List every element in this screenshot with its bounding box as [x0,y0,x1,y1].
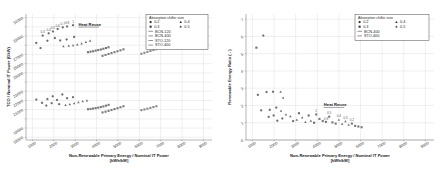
data-point [146,108,148,110]
chart-panel-left: 1000200030004000500060007000800090001800… [0,0,222,174]
data-point [95,107,97,109]
y-tick-label: 18000 [12,135,25,145]
data-point [122,105,124,107]
x-tick-label: 8000 [397,140,408,149]
right-chart-svg: 1000200030004000500060007000800090000123… [222,0,443,174]
data-point [92,107,94,109]
x-tick-label: 8000 [176,140,187,149]
y-tick-label: 22000 [12,98,25,108]
figure-root: 1000200030004000500060007000800090001800… [0,0,443,174]
data-point [360,126,362,128]
data-point [140,109,142,111]
data-point [143,52,145,54]
legend-size-label: 0.2 [363,20,368,24]
x-tick-label: 9000 [419,140,430,149]
data-point [324,121,326,123]
data-point [119,49,121,51]
left-chart-svg: 1000200030004000500060007000800090001800… [0,0,222,174]
legend-size-label: 0.5 [400,25,405,29]
y-tick-label: 31000 [12,15,25,25]
x-axis-units: [kWh/kW] [330,158,349,163]
data-point [87,108,89,110]
x-tick-label: 6000 [354,140,365,149]
legend-size-label: 0.3 [363,25,368,29]
y-tick-label: 25000 [12,70,25,80]
data-point [92,50,94,52]
data-point [107,104,109,106]
legend-size-label: 0.4 [184,20,189,24]
x-tick-label: 4000 [311,140,322,149]
data-point [328,116,330,118]
data-point [97,107,99,109]
x-tick-label: 2000 [48,140,59,149]
data-point [122,48,124,50]
data-point [107,53,109,55]
data-point [155,105,157,107]
data-point [113,108,115,110]
x-tick-label: 5000 [333,140,344,149]
data-point [149,50,151,52]
x-tick-label: 4000 [91,140,102,149]
legend-title: Absorption chiller size [149,16,184,20]
data-point [101,111,103,113]
data-point [318,118,320,120]
y-tick-label: 2 [239,103,243,108]
chart-panel-right: 1000200030004000500060007000800090000123… [222,0,443,174]
data-point [110,109,112,111]
x-tick-label: 6000 [134,140,145,149]
data-point [350,123,352,125]
data-point [313,122,315,124]
data-point [102,48,104,50]
y-tick-label: 5 [239,52,243,57]
data-point-label: 0.4 [336,114,341,118]
data-point [113,51,115,53]
data-point [107,110,109,112]
y-tick-label: 23000 [12,89,25,99]
y-tick-label: 7 [239,17,243,22]
y-tick-label: 1 [239,121,243,126]
data-point [354,125,356,127]
y-tick-label: 19000 [12,125,25,135]
y-tick-label: 0 [239,137,244,143]
data-point [315,113,317,115]
data-point [87,51,89,53]
data-point [357,125,359,127]
legend-series-label: STO-120 [155,39,170,43]
x-tick-label: 1000 [27,140,38,149]
data-point [104,111,106,113]
legend-series-label: BCN-120 [155,30,171,34]
data-point [140,53,142,55]
data-point [119,106,121,108]
data-point-label: 0.5 [327,111,332,115]
y-axis-title: Renewable Energy Ratio ( - ) [227,49,232,105]
legend-series-label: BCN-400 [155,34,171,38]
x-tick-label: 7000 [155,140,166,149]
data-point [116,107,118,109]
data-point-label: 0.8 [323,117,328,121]
data-point [152,106,154,108]
x-tick-label: 7000 [376,140,387,149]
legend-marker [358,26,360,28]
data-point-label: 0.3 [41,30,46,34]
data-point-label: 0.6 [55,24,60,28]
annotation-heat-reuse: Heat Reuse [323,102,346,107]
legend-series-label: BCN-400 [364,30,380,34]
data-point [100,48,102,50]
x-tick-label: 9000 [198,140,209,149]
data-point [95,50,97,52]
data-point [143,108,145,110]
legend-size-label: 0.4 [400,20,405,24]
legend-size-label: 0.3 [154,25,159,29]
x-tick-label: 2000 [268,140,279,149]
data-point-label: 1 [315,109,317,113]
y-tick-label: 21000 [12,107,25,117]
data-point [255,47,257,49]
data-point [331,121,333,123]
y-tick-label: 26000 [12,61,25,71]
data-point [116,50,118,52]
data-point [105,47,107,49]
data-point-label: 0.3 [343,116,348,120]
data-point-label: 0.2 [349,118,354,122]
y-tick-label: 6 [239,34,243,39]
data-point [102,105,104,107]
